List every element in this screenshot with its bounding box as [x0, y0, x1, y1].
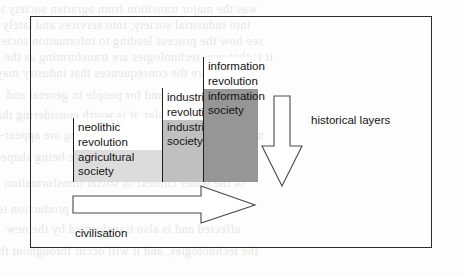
stair-column-information: information revolution information socie… — [203, 57, 258, 182]
label-agricultural-society-line2: society — [78, 164, 114, 179]
right-arrow-icon — [73, 186, 257, 224]
down-arrow-icon — [262, 96, 304, 188]
label-information-revolution-line2: revolution — [208, 74, 258, 89]
label-agricultural-society-line1: agricultural — [78, 150, 134, 165]
label-neolithic-revolution-line1: neolithic — [78, 120, 120, 135]
stair-column-agricultural: neolithic revolution agricultural societ… — [73, 118, 162, 182]
bleed-line: was the major transition from agrarian s… — [0, 2, 257, 17]
civilisation-label: civilisation — [75, 226, 127, 240]
diagram-page: was the major transition from agrarian s… — [0, 0, 464, 277]
label-information-revolution-line1: information — [208, 59, 265, 74]
label-neolithic-revolution-line2: revolution — [78, 135, 128, 150]
stair-column-industrial: industrial revolution industrial society — [162, 88, 203, 182]
historical-layers-label: historical layers — [311, 113, 390, 127]
label-industrial-society-line2: society — [167, 134, 203, 149]
label-information-society-line1: information — [208, 89, 265, 104]
label-information-society-line2: society — [208, 103, 244, 118]
